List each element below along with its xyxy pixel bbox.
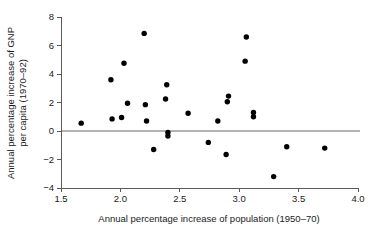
- scatter-plot-figure: 1.52.02.53.03.54.0 −4−202468 Annual perc…: [0, 0, 372, 231]
- x-axis-tick-labels: 1.52.02.53.03.54.0: [54, 193, 364, 204]
- data-point-23: [251, 110, 256, 115]
- data-point-18: [225, 99, 230, 104]
- data-point-15: [206, 140, 211, 145]
- data-points: [79, 31, 328, 180]
- y-tick-label-4: 4: [49, 68, 54, 79]
- data-point-16: [215, 118, 220, 123]
- data-point-19: [226, 93, 231, 98]
- data-point-3: [119, 115, 124, 120]
- x-axis-title: Annual percentage increase of population…: [98, 213, 319, 224]
- y-tick-label-2: 0: [49, 125, 54, 136]
- y-axis-title-line1: Annual percentage increase of GNP: [5, 27, 16, 179]
- data-point-2: [109, 116, 114, 121]
- axes: [61, 17, 358, 188]
- data-point-13: [165, 133, 170, 138]
- data-point-21: [244, 34, 249, 39]
- plot-canvas: 1.52.02.53.03.54.0 −4−202468 Annual perc…: [0, 0, 372, 231]
- data-point-0: [79, 120, 84, 125]
- x-tick-label-4: 3.5: [292, 193, 305, 204]
- data-point-1: [108, 77, 113, 82]
- x-tick-label-2: 2.5: [173, 193, 186, 204]
- data-point-10: [163, 96, 168, 101]
- y-tick-label-1: −2: [43, 154, 54, 165]
- data-point-5: [125, 101, 130, 106]
- data-point-9: [151, 147, 156, 152]
- data-point-11: [164, 82, 169, 87]
- y-tick-label-3: 2: [49, 97, 54, 108]
- y-tick-label-5: 6: [49, 40, 54, 51]
- data-point-7: [143, 102, 148, 107]
- data-point-6: [141, 31, 146, 36]
- data-point-17: [223, 152, 228, 157]
- x-tick-label-5: 4.0: [351, 193, 364, 204]
- y-tick-label-6: 8: [49, 11, 54, 22]
- x-tick-label-1: 2.0: [114, 193, 127, 204]
- data-point-14: [185, 110, 190, 115]
- y-axis-title-line2: per capita (1970–92): [17, 59, 28, 147]
- x-tick-label-0: 1.5: [54, 193, 67, 204]
- data-point-25: [284, 144, 289, 149]
- y-tick-label-0: −4: [43, 182, 54, 193]
- data-point-20: [242, 58, 247, 63]
- data-point-26: [322, 145, 327, 150]
- data-point-4: [121, 61, 126, 66]
- axis-spines: [61, 17, 358, 188]
- x-tick-label-3: 3.0: [233, 193, 246, 204]
- data-point-8: [144, 118, 149, 123]
- axis-ticks: [57, 17, 358, 192]
- y-axis-tick-labels: −4−202468: [43, 11, 54, 193]
- data-point-24: [271, 174, 276, 179]
